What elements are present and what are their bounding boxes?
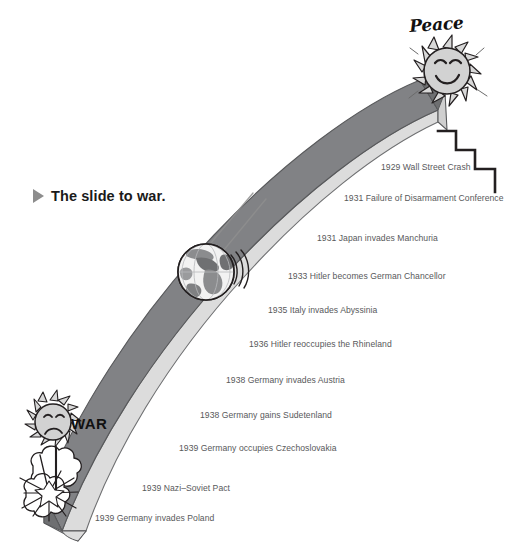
event-label: 1935 Italy invades Abyssinia xyxy=(268,306,377,315)
peace-label: Peace xyxy=(409,12,465,36)
event-label: 1939 Germany invades Poland xyxy=(95,514,214,523)
event-label: 1931 Japan invades Manchuria xyxy=(317,234,438,243)
slide-to-war-infographic: The slide to war. Peace WAR 1929 Wall St… xyxy=(0,0,521,546)
event-label: 1931 Failure of Disarmament Conference xyxy=(344,194,504,203)
event-label: 1939 Germany occupies Czechoslovakia xyxy=(179,444,337,453)
event-label: 1939 Nazi–Soviet Pact xyxy=(142,484,230,493)
page-title-text: The slide to war. xyxy=(51,188,166,204)
event-label: 1929 Wall Street Crash xyxy=(381,163,471,172)
slide-bottom-lip xyxy=(62,531,86,541)
event-label: 1938 Germany invades Austria xyxy=(226,376,345,385)
page-title: The slide to war. xyxy=(33,188,166,204)
event-label: 1933 Hitler becomes German Chancellor xyxy=(288,272,446,281)
event-label: 1938 Germany gains Sudetenland xyxy=(200,411,332,420)
triangle-right-icon xyxy=(33,189,44,203)
slide-ramp xyxy=(44,80,447,541)
event-label: 1936 Hitler reoccupies the Rhineland xyxy=(249,340,392,349)
slide-light-band xyxy=(62,110,438,531)
war-label: WAR xyxy=(71,415,107,432)
